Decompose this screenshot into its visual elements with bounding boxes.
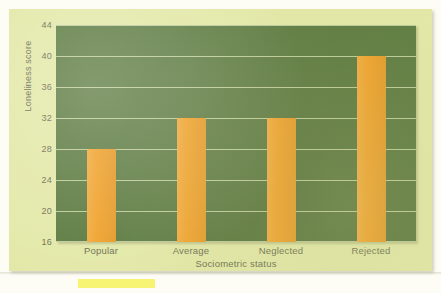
y-axis-tick-label: 28 <box>42 144 52 154</box>
x-axis-tick-label: Neglected <box>259 245 304 256</box>
y-axis-tick-label: 40 <box>42 51 52 61</box>
gridline <box>56 25 416 26</box>
figure-card: 4440363228242016 Loneliness score Popula… <box>9 9 432 271</box>
x-axis-tick-label: Average <box>173 245 210 256</box>
plot-area <box>56 25 416 242</box>
bar <box>267 118 296 242</box>
x-axis-tick-labels: PopularAverageNeglectedRejected <box>56 245 416 259</box>
y-axis-title: Loneliness score <box>23 11 33 141</box>
y-axis-tick-label: 20 <box>42 206 52 216</box>
x-axis-tick-label: Popular <box>84 245 118 256</box>
bar <box>177 118 206 242</box>
bar <box>357 56 386 242</box>
y-axis-tick-label: 44 <box>42 20 52 30</box>
y-axis-tick-label: 32 <box>42 113 52 123</box>
x-axis-title: Sociometric status <box>56 258 416 269</box>
y-axis-tick-label: 36 <box>42 82 52 92</box>
y-axis-tick-label: 16 <box>42 237 52 247</box>
bar <box>87 149 116 242</box>
highlighter-mark <box>78 279 155 288</box>
y-axis-tick-label: 24 <box>42 175 52 185</box>
x-axis-tick-label: Rejected <box>351 245 390 256</box>
page-edge-shadow <box>0 272 441 275</box>
